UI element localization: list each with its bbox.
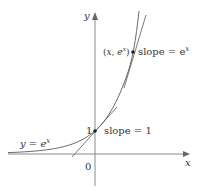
y-tick-one-label: 1: [86, 125, 92, 136]
origin-label: 0: [85, 161, 91, 172]
svg-text:(x, ex): (x, ex): [103, 45, 130, 57]
point-e: , e: [112, 47, 123, 57]
exp-function-diagram: y x 0 1 slope = 1 slope = ex (x, ex) y =…: [0, 0, 197, 191]
slope-ex-label: slope = ex: [138, 45, 189, 57]
x-axis: [8, 151, 190, 157]
y-axis-label: y: [83, 10, 90, 21]
paren-close: ): [126, 47, 130, 57]
slope-one-label: slope = 1: [104, 125, 152, 136]
point-x-ex: [131, 50, 135, 54]
slope-ex-sup: x: [185, 45, 189, 53]
x-axis-label: x: [185, 157, 191, 168]
curve-label-sup: x: [46, 137, 50, 145]
svg-text:slope = ex: slope = ex: [138, 45, 189, 57]
curve-label: y = ex: [19, 137, 50, 149]
point-0-1: [93, 129, 97, 133]
svg-text:y = ex: y = ex: [19, 137, 50, 149]
slope-ex-text: slope = e: [138, 46, 185, 57]
point-x-ex-label: (x, ex): [103, 45, 130, 57]
y-axis: [92, 12, 98, 186]
y-axis-arrow-icon: [92, 12, 98, 20]
curve-label-text: y = e: [19, 138, 46, 149]
